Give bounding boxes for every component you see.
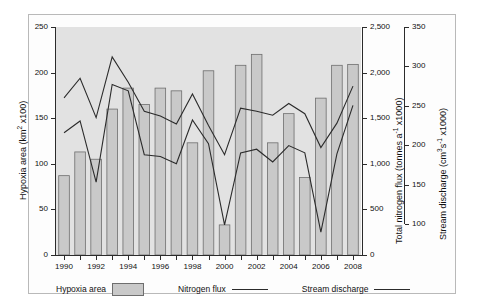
x-tick xyxy=(353,256,354,260)
y-tick-label-discharge: 300 xyxy=(412,62,425,70)
bar-hypoxia-area xyxy=(187,143,198,255)
y-axis-left xyxy=(55,27,56,256)
bar-hypoxia-area xyxy=(171,91,182,255)
y-tick-label-left: 200 xyxy=(22,69,48,77)
bar-hypoxia-area xyxy=(75,152,86,255)
bar-hypoxia-area xyxy=(107,109,118,255)
y-tick-discharge xyxy=(405,27,409,28)
x-tick xyxy=(209,256,210,260)
bar-hypoxia-area xyxy=(59,176,70,255)
x-tick xyxy=(337,256,338,260)
x-tick xyxy=(80,256,81,260)
bar-hypoxia-area xyxy=(155,88,166,255)
x-tick xyxy=(64,256,65,260)
x-tick xyxy=(128,256,129,260)
y-tick-nitrogen xyxy=(363,255,367,256)
y-tick-label-discharge: 250 xyxy=(412,102,425,110)
bar-hypoxia-area xyxy=(235,65,246,255)
y-tick-nitrogen xyxy=(363,73,367,74)
y-tick-label-left: 0 xyxy=(22,251,48,259)
legend-label: Nitrogen flux xyxy=(178,284,226,294)
x-tick xyxy=(257,256,258,260)
y-axis-discharge xyxy=(404,27,405,224)
legend-item-hypoxia-area[interactable]: Hypoxia area xyxy=(56,283,144,296)
y-tick-label-discharge: 100 xyxy=(412,220,425,228)
y-tick-nitrogen xyxy=(363,164,367,165)
x-tick xyxy=(144,256,145,260)
legend-label: Hypoxia area xyxy=(56,284,106,294)
y-tick-discharge xyxy=(405,224,409,225)
y-tick-label-nitrogen: 2,000 xyxy=(370,69,390,77)
y-axis-left-title: Hypoxia area (km2 x100) xyxy=(16,101,28,200)
y-tick-label-left: 250 xyxy=(22,23,48,31)
y-tick-label-left: 50 xyxy=(22,205,48,213)
x-tick xyxy=(160,256,161,260)
y-tick-left xyxy=(51,118,55,119)
y-tick-label-nitrogen: 1,000 xyxy=(370,160,390,168)
y-tick-label-nitrogen: 500 xyxy=(370,205,383,213)
bar-hypoxia-area xyxy=(91,159,102,255)
y-tick-label-nitrogen: 1,500 xyxy=(370,114,390,122)
x-tick xyxy=(273,256,274,260)
y-axis-nitrogen xyxy=(362,27,363,256)
y-tick-label-discharge: 350 xyxy=(412,23,425,31)
legend-swatch-icon xyxy=(112,283,144,296)
y-tick-label-nitrogen: 2,500 xyxy=(370,23,390,31)
bar-hypoxia-area xyxy=(332,65,343,255)
y-tick-label-nitrogen: 0 xyxy=(370,251,374,259)
plot-area xyxy=(56,27,361,255)
x-tick xyxy=(241,256,242,260)
y-tick-discharge xyxy=(405,185,409,186)
x-tick xyxy=(225,256,226,260)
y-tick-label-discharge: 150 xyxy=(412,181,425,189)
x-tick xyxy=(112,256,113,260)
y-tick-discharge xyxy=(405,66,409,67)
bar-hypoxia-area xyxy=(123,88,134,255)
legend-label: Stream discharge xyxy=(302,284,369,294)
x-tick-label: 2008 xyxy=(333,262,373,271)
x-tick xyxy=(305,256,306,260)
legend-item-stream-discharge[interactable]: Stream discharge xyxy=(302,284,411,294)
x-tick xyxy=(192,256,193,260)
y-tick-left xyxy=(51,209,55,210)
bar-hypoxia-area xyxy=(219,225,230,255)
y-tick-nitrogen xyxy=(363,27,367,28)
x-tick xyxy=(176,256,177,260)
chart-legend: Hypoxia areaNitrogen fluxStream discharg… xyxy=(56,281,386,297)
legend-item-nitrogen-flux[interactable]: Nitrogen flux xyxy=(178,284,268,294)
series-layer xyxy=(56,27,361,255)
y-axis-nitrogen-title: Total nitrogen flux (tonnes a-1 x1000) xyxy=(392,98,404,244)
bar-hypoxia-area xyxy=(348,64,359,255)
y-tick-label-discharge: 200 xyxy=(412,141,425,149)
y-tick-left xyxy=(51,73,55,74)
y-tick-discharge xyxy=(405,106,409,107)
x-tick xyxy=(321,256,322,260)
bar-hypoxia-area xyxy=(251,54,262,255)
y-axis-discharge-title: Stream discharge (cm3s-1 x1000) xyxy=(436,108,448,240)
y-tick-left xyxy=(51,27,55,28)
x-tick xyxy=(289,256,290,260)
x-tick xyxy=(96,256,97,260)
y-tick-nitrogen xyxy=(363,209,367,210)
legend-line-icon xyxy=(232,289,268,290)
chart-figure: 050100150200250 05001,0001,5002,0002,500… xyxy=(0,0,483,308)
y-tick-left xyxy=(51,255,55,256)
y-tick-left xyxy=(51,164,55,165)
y-tick-discharge xyxy=(405,145,409,146)
bar-hypoxia-area xyxy=(300,177,311,255)
bar-hypoxia-area xyxy=(139,105,150,255)
legend-line-icon xyxy=(374,289,410,290)
bar-hypoxia-area xyxy=(283,114,294,255)
y-tick-nitrogen xyxy=(363,118,367,119)
